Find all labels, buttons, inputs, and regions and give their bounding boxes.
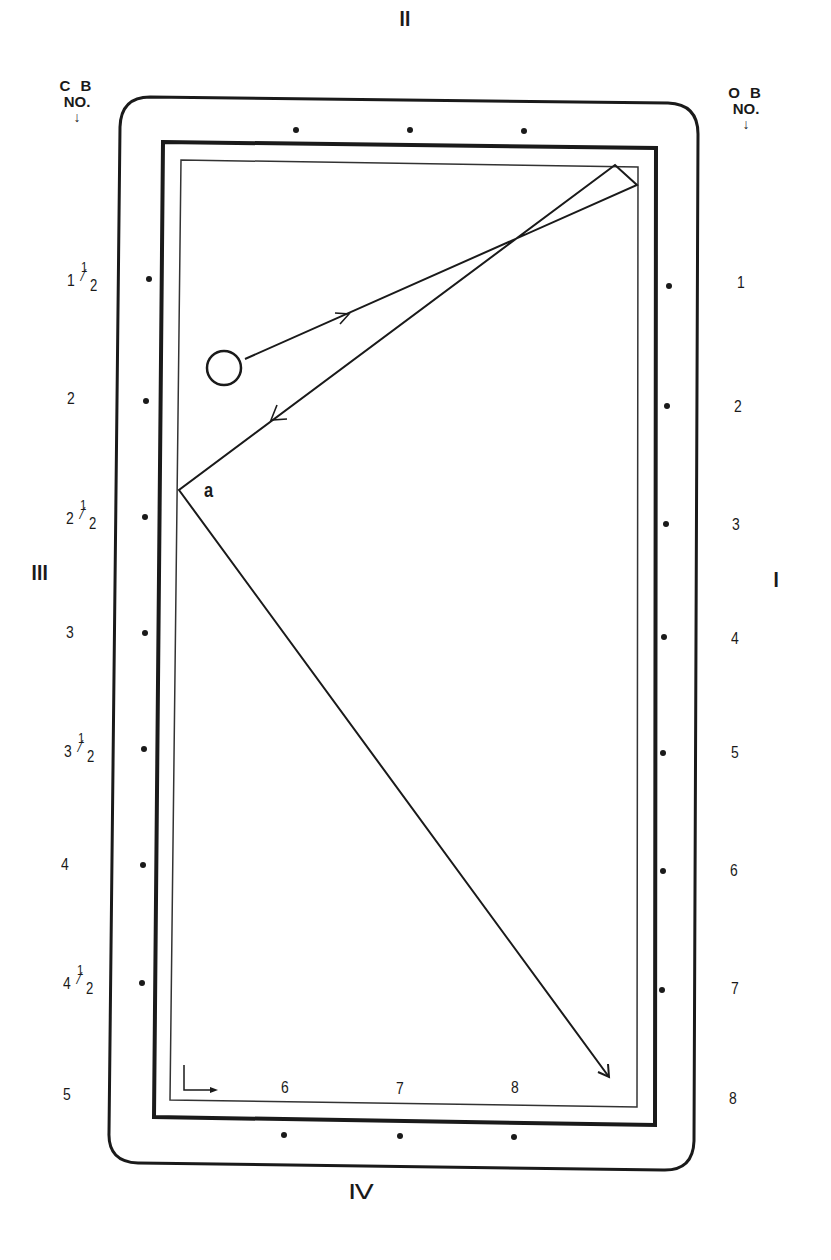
ob-number-3: 3 <box>732 516 740 533</box>
left-rail-diamonds <box>139 276 152 986</box>
point-a-label: a <box>204 480 213 500</box>
billiard-table-diagram <box>0 0 831 1260</box>
corner-orientation-arrow-icon <box>184 1065 210 1090</box>
bottom-number-8: 8 <box>511 1079 519 1096</box>
fraction-slash: ⁄ <box>80 739 82 755</box>
cue-ball <box>207 351 241 385</box>
ob-number-2: 2 <box>734 398 742 415</box>
outer-rail-frame <box>109 97 698 1170</box>
cb-number-5: 5 <box>63 1086 71 1103</box>
bottom-number-7: 7 <box>396 1080 404 1097</box>
object-ball-number-header: O B NO. ↓ <box>728 85 764 131</box>
object-ball-header-line2: NO. <box>733 100 760 117</box>
ob-number-7: 7 <box>731 980 739 997</box>
ob-number-1: 1 <box>737 274 745 291</box>
fraction-slash: ⁄ <box>79 971 81 987</box>
cue-ball-header-line1: C B <box>60 77 95 94</box>
rail-label-III: Ⅲ <box>30 563 48 583</box>
object-ball-header-line1: O B <box>728 84 764 101</box>
rail-label-II: Ⅱ <box>398 9 411 29</box>
ob-number-5: 5 <box>731 744 739 761</box>
ob-number-6: 6 <box>730 862 738 879</box>
cb-number-4: 4 <box>61 856 69 873</box>
fraction-slash: ⁄ <box>82 506 84 522</box>
fraction-slash: ⁄ <box>83 268 85 284</box>
rail-label-I: Ⅰ <box>772 570 779 590</box>
playing-surface-frame <box>170 160 638 1107</box>
ob-number-8: 8 <box>729 1090 737 1107</box>
bottom-number-6: 6 <box>281 1079 289 1096</box>
top-rail-diamonds <box>293 127 527 134</box>
ob-number-4: 4 <box>731 630 739 647</box>
rail-label-IV: Ⅳ <box>348 1182 372 1202</box>
bottom-rail-diamonds <box>281 1132 517 1140</box>
right-rail-diamonds <box>659 283 672 993</box>
ball-path <box>179 165 637 1077</box>
corner-arrowhead-icon <box>210 1087 218 1093</box>
cue-ball-number-header: C B NO. ↓ <box>59 78 95 124</box>
cushion-frame <box>154 142 656 1125</box>
cb-number-3: 3 <box>66 624 74 641</box>
down-arrow-icon: ↓ <box>59 110 95 125</box>
down-arrow-icon: ↓ <box>728 117 764 132</box>
cb-number-2: 2 <box>67 390 75 407</box>
cue-ball-header-line2: NO. <box>64 93 91 110</box>
